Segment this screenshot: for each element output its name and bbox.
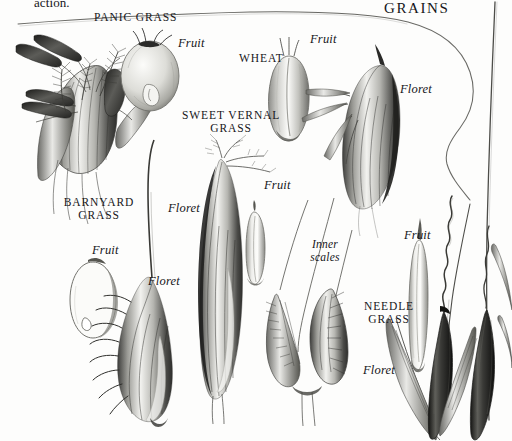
barnyard-grass-fruit-art	[70, 258, 118, 338]
species-label-sweet-vernal-grass: SWEET VERNAL GRASS	[182, 109, 280, 135]
species-label-wheat: WHEAT	[239, 52, 284, 65]
running-text: action.	[34, 0, 70, 11]
species-label-panic-grass: PANIC GRASS	[94, 11, 177, 24]
botanical-plate-grains: action. GRAINS PANIC GRASS WHEAT SWEET V…	[0, 0, 512, 441]
plate-title: GRAINS	[384, 0, 449, 17]
right-edge-awns	[446, 2, 497, 420]
part-label-needle-grass-floret: Floret	[363, 363, 395, 377]
needle-grass-floret-center-art	[428, 196, 453, 439]
needle-grass-floret-left-art	[386, 318, 440, 440]
needle-grass-floret-right-art	[439, 226, 512, 440]
part-label-panic-grass-fruit: Fruit	[178, 36, 205, 50]
part-label-sweet-vernal-grass-floret: Floret	[168, 201, 200, 215]
part-label-wheat-fruit: Fruit	[310, 32, 337, 46]
part-label-needle-grass-fruit: Fruit	[404, 228, 431, 242]
species-label-barnyard-grass: BARNYARD GRASS	[60, 196, 138, 222]
inner-scales-art	[266, 198, 352, 426]
part-label-inner-scales: Inner scales	[300, 238, 350, 264]
wheat-floret-art	[302, 44, 400, 238]
plumose-stigmas	[52, 44, 126, 112]
top-sweeping-awn	[18, 12, 473, 200]
part-label-sweet-vernal-grass-fruit: Fruit	[264, 178, 291, 192]
species-label-needle-grass: NEEDLE GRASS	[358, 300, 420, 326]
sweet-vernal-grass-fruit-art	[246, 200, 265, 286]
part-label-barnyard-grass-fruit: Fruit	[92, 243, 119, 257]
part-label-barnyard-grass-floret: Floret	[148, 274, 180, 288]
panic-grass-fruit-art	[121, 28, 179, 111]
part-label-wheat-floret: Floret	[400, 82, 432, 96]
anthers	[16, 35, 125, 118]
